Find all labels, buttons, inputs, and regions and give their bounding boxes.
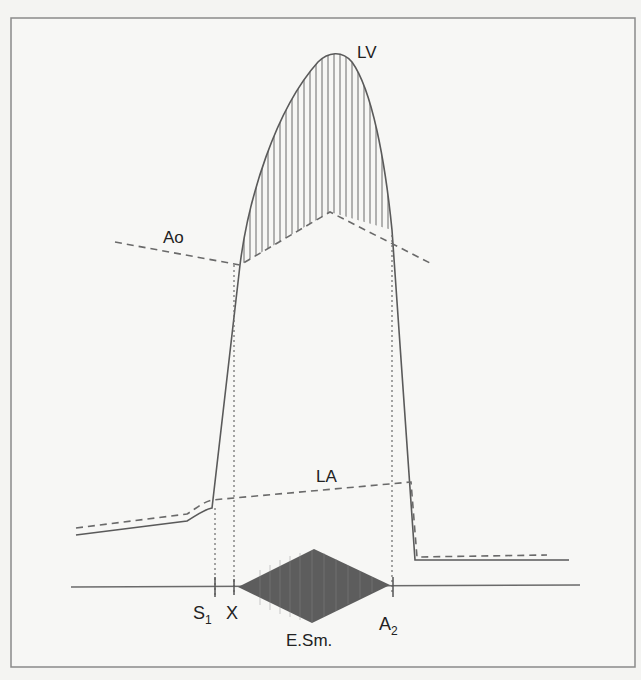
ao-label: Ao (163, 228, 184, 247)
la-label: LA (316, 467, 337, 486)
lv-label: LV (357, 43, 377, 62)
esm-label: E.Sm. (286, 631, 332, 650)
aortic-stenosis-diagram: LV Ao LA S1 X E.Sm. A2 (0, 0, 641, 680)
x-label: X (226, 603, 238, 623)
